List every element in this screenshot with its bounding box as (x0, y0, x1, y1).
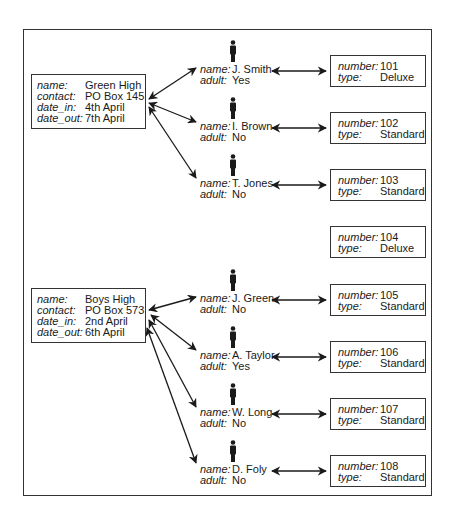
person-icon (229, 440, 237, 462)
person-adult: Yes (232, 361, 250, 372)
school-box-boys-high: name:Boys High contact:PO Box 573 date_i… (31, 288, 146, 343)
room-box-103: number:103 type:Standard (330, 169, 426, 201)
field-label: type: (338, 472, 380, 483)
arrow-boyshigh-dfoly (147, 328, 196, 463)
room-box-105: number:105 type:Standard (330, 284, 426, 316)
field-label: type: (338, 358, 380, 369)
arrow-greenhigh-ibrown (149, 103, 196, 122)
person-adult: No (232, 475, 246, 486)
person-a-taylor: name:A. Taylor adult:Yes (200, 350, 275, 372)
person-icon (229, 383, 237, 405)
field-label: type: (338, 301, 380, 312)
room-box-102: number:102 type:Standard (330, 112, 426, 144)
person-w-long: name:W. Long adult:No (200, 407, 272, 429)
school-box-green-high: name:Green High contact:PO Box 145 date_… (31, 74, 146, 129)
field-label: adult: (200, 304, 232, 315)
person-icon (229, 154, 237, 176)
arrow-boyshigh-wlong (149, 320, 196, 407)
room-type: Deluxe (380, 243, 414, 254)
school-date-out: 7th April (85, 113, 125, 124)
field-label: type: (338, 243, 380, 254)
arrow-greenhigh-tjones (149, 107, 196, 178)
school-date-out: 6th April (85, 327, 125, 338)
person-d-foly: name:D. Foly adult:No (200, 464, 267, 486)
field-label: type: (338, 415, 380, 426)
room-box-104: number:104 type:Deluxe (330, 226, 426, 258)
room-type: Standard (380, 186, 425, 197)
room-type: Standard (380, 358, 425, 369)
field-label: date_out: (37, 327, 85, 338)
person-icon (229, 40, 237, 62)
room-box-106: number:106 type:Standard (330, 341, 426, 373)
arrow-greenhigh-jsmith (149, 68, 196, 99)
person-i-brown: name:I. Brown adult:No (200, 121, 272, 143)
field-label: date_out: (37, 113, 85, 124)
room-type: Standard (380, 472, 425, 483)
person-j-green: name:J. Green adult:No (200, 293, 274, 315)
room-box-108: number:108 type:Standard (330, 455, 426, 487)
field-label: adult: (200, 418, 232, 429)
field-label: adult: (200, 361, 232, 372)
room-type: Standard (380, 129, 425, 140)
person-j-smith: name:J. Smith adult:Yes (200, 64, 272, 86)
field-label: type: (338, 129, 380, 140)
room-type: Standard (380, 301, 425, 312)
person-icon (229, 326, 237, 348)
field-label: type: (338, 72, 380, 83)
person-icon (229, 269, 237, 291)
room-type: Standard (380, 415, 425, 426)
person-adult: No (232, 304, 246, 315)
arrow-boyshigh-ataylor (151, 315, 196, 350)
person-adult: No (232, 418, 246, 429)
field-label: type: (338, 186, 380, 197)
room-box-107: number:107 type:Standard (330, 398, 426, 430)
field-label: adult: (200, 475, 232, 486)
person-adult: Yes (232, 75, 250, 86)
person-adult: No (232, 132, 246, 143)
person-t-jones: name:T. Jones adult:No (200, 178, 273, 200)
room-box-101: number:101 type:Deluxe (330, 55, 426, 87)
field-label: adult: (200, 75, 232, 86)
arrow-boyshigh-jgreen (149, 297, 196, 310)
person-adult: No (232, 189, 246, 200)
field-label: adult: (200, 189, 232, 200)
field-label: adult: (200, 132, 232, 143)
room-type: Deluxe (380, 72, 414, 83)
person-icon (229, 97, 237, 119)
